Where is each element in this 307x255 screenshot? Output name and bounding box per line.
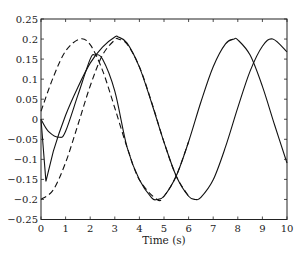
- x-tick-label: 5: [161, 223, 167, 234]
- x-tick-label: 2: [87, 223, 93, 234]
- y-axis-ticks: 0.250.20.150.10.050−0.05−0.1−0.15−0.2−0.…: [7, 14, 287, 226]
- x-tick-label: 4: [136, 223, 142, 234]
- x-axis-label: Time (s): [142, 234, 185, 246]
- y-tick-label: 0.05: [16, 94, 38, 105]
- series-dashed-2: [41, 38, 189, 199]
- x-axis-ticks: 012345678910: [38, 19, 294, 234]
- y-tick-label: 0.1: [22, 74, 38, 85]
- y-tick-label: 0.25: [16, 14, 38, 25]
- series-solid-2: [41, 38, 287, 200]
- plot-curves: [41, 36, 287, 201]
- y-tick-label: −0.1: [14, 154, 38, 165]
- y-tick-label: −0.2: [14, 194, 38, 205]
- x-tick-label: 10: [281, 223, 294, 234]
- series-solid-1: [41, 36, 287, 200]
- x-tick-label: 7: [210, 223, 216, 234]
- y-tick-label: −0.25: [7, 214, 38, 225]
- x-tick-label: 9: [259, 223, 265, 234]
- y-tick-label: 0.15: [16, 54, 38, 65]
- x-tick-label: 0: [38, 223, 44, 234]
- y-tick-label: 0.2: [22, 34, 38, 45]
- y-tick-label: 0: [32, 114, 38, 125]
- line-chart: 012345678910 0.250.20.150.10.050−0.05−0.…: [0, 0, 307, 255]
- y-tick-label: −0.05: [7, 134, 38, 145]
- x-tick-label: 1: [62, 223, 68, 234]
- plot-frame: [41, 19, 287, 220]
- x-tick-label: 8: [235, 223, 241, 234]
- x-tick-label: 6: [185, 223, 191, 234]
- y-tick-label: −0.15: [7, 174, 38, 185]
- x-tick-label: 3: [112, 223, 118, 234]
- series-dashed-1: [41, 39, 189, 201]
